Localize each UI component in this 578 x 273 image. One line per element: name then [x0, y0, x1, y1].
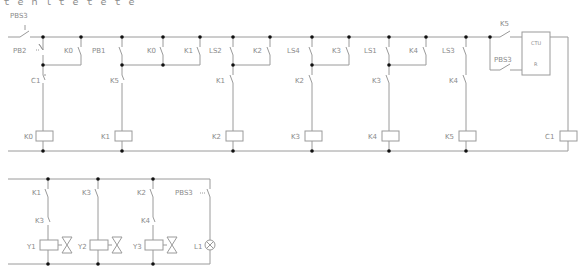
label-y2: Y2	[77, 243, 87, 251]
label-k3-coil: K3	[291, 133, 300, 141]
label-k1-series: K1	[216, 77, 225, 85]
ctu-counter-block	[522, 32, 550, 75]
label-pbs3-start: PBS3	[10, 12, 28, 20]
label-k2-series: K2	[295, 77, 304, 85]
label-pb2: PB2	[13, 47, 26, 55]
label-r2-k3a: K3	[35, 217, 44, 225]
label-l1: L1	[194, 243, 202, 251]
label-c1-coil: C1	[545, 133, 554, 141]
label-k5-series: K5	[110, 77, 119, 85]
label-reset: R	[534, 61, 538, 67]
label-r2-k2: K2	[137, 189, 146, 197]
label-k4-coil: K4	[368, 133, 378, 141]
label-ls1: LS1	[364, 47, 377, 55]
label-y3: Y3	[132, 243, 142, 251]
label-c1-series: C1	[31, 77, 40, 85]
label-k0-b: K0	[147, 47, 156, 55]
label-k4-par: K4	[409, 47, 419, 55]
label-r2-k1: K1	[32, 189, 41, 197]
label-k5-counter: K5	[500, 20, 509, 28]
pbs3-start-contact	[20, 25, 29, 37]
label-r2-k4: K4	[141, 217, 151, 225]
label-k2-par: K2	[253, 47, 262, 55]
label-k1-coil: K1	[101, 133, 110, 141]
label-ctu: CTU	[531, 40, 542, 46]
label-k0-a: K0	[64, 47, 73, 55]
ladder-diagram: PBS3 PB2 K0 C1 K0 PB1 K0 K5 K1 K1 LS2 K2…	[0, 0, 578, 273]
label-k2-coil: K2	[212, 133, 221, 141]
label-ls2: LS2	[209, 47, 222, 55]
label-pb1: PB1	[92, 47, 105, 55]
label-k4-series: K4	[449, 77, 459, 85]
label-k3-par: K3	[332, 47, 341, 55]
label-pbs3-counter: PBS3	[494, 56, 512, 64]
label-r2-k3b: K3	[82, 189, 91, 197]
label-k5-coil: K5	[445, 133, 454, 141]
label-r2-pbs3: PBS3	[175, 189, 193, 197]
label-k0-coil: K0	[24, 133, 33, 141]
label-ls3: LS3	[442, 47, 455, 55]
label-y1: Y1	[26, 243, 36, 251]
label-ls4: LS4	[287, 47, 300, 55]
label-k3-series: K3	[372, 77, 381, 85]
label-k1-par: K1	[184, 47, 193, 55]
